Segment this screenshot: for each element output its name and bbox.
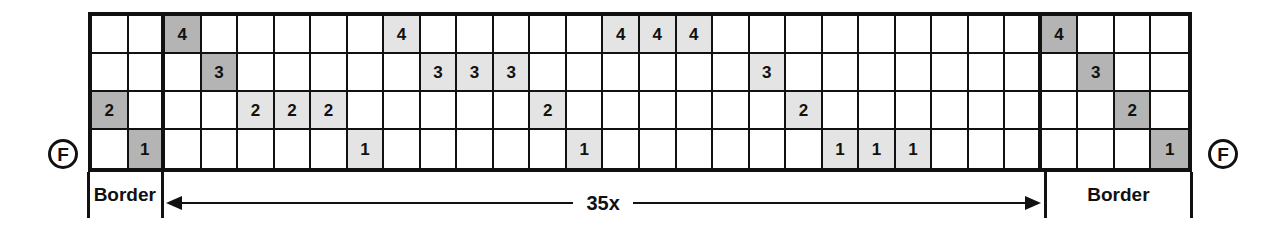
- draft-cell-empty: [1115, 16, 1152, 54]
- draft-cell-empty: [1042, 54, 1079, 92]
- draft-cell-empty: [603, 92, 640, 130]
- draft-cell-empty: [1151, 16, 1188, 54]
- draft-cell-empty: [348, 92, 385, 130]
- draft-cell-empty: [275, 54, 312, 92]
- draft-cell-marked: 3: [494, 54, 531, 92]
- draft-cell-empty: [92, 130, 129, 168]
- draft-cell-marked: 2: [275, 92, 312, 130]
- draft-cell-empty: [859, 92, 896, 130]
- draft-cell-empty: [92, 54, 129, 92]
- draft-cell-empty: [494, 92, 531, 130]
- draft-row: 2222222: [92, 92, 1188, 130]
- draft-cell-empty: [1078, 130, 1115, 168]
- draft-cell-empty: [567, 16, 604, 54]
- draft-cell-marked: 1: [823, 130, 860, 168]
- arrow-left-icon: [166, 196, 182, 210]
- draft-cell-empty: [1042, 130, 1079, 168]
- left-border-label: Border: [88, 178, 162, 210]
- draft-cell-empty: [786, 16, 823, 54]
- draft-cell-marked: 2: [530, 92, 567, 130]
- draft-cell-empty: [129, 54, 166, 92]
- draft-cell-empty: [713, 54, 750, 92]
- draft-cell-empty: [713, 92, 750, 130]
- draft-cell-marked: 2: [238, 92, 275, 130]
- draft-cell-empty: [713, 16, 750, 54]
- draft-cell-empty: [1005, 130, 1042, 168]
- draft-cell-empty: [786, 130, 823, 168]
- draft-cell-marked: 1: [129, 130, 166, 168]
- draft-cell-empty: [238, 16, 275, 54]
- draft-row: 1111111: [92, 130, 1188, 168]
- draft-cell-marked: 4: [603, 16, 640, 54]
- draft-cell-empty: [1151, 92, 1188, 130]
- draft-cell-empty: [311, 54, 348, 92]
- draft-cell-empty: [677, 130, 714, 168]
- draft-cell-empty: [969, 130, 1006, 168]
- draft-cell-empty: [165, 54, 202, 92]
- draft-cell-empty: [1078, 16, 1115, 54]
- draft-cell-empty: [165, 92, 202, 130]
- draft-cell-empty: [311, 16, 348, 54]
- draft-cell-empty: [348, 54, 385, 92]
- draft-cell-empty: [896, 54, 933, 92]
- draft-cell-empty: [457, 92, 494, 130]
- frame-marker-right: F: [1208, 139, 1238, 169]
- frame-marker-left: F: [48, 139, 78, 169]
- draft-cell-empty: [1005, 92, 1042, 130]
- draft-cell-empty: [823, 92, 860, 130]
- draft-cell-empty: [530, 16, 567, 54]
- repeat-count-label: 35x: [579, 192, 628, 214]
- draft-cell-empty: [1115, 54, 1152, 92]
- draft-cell-empty: [969, 16, 1006, 54]
- draft-cell-marked: 3: [1078, 54, 1115, 92]
- draft-cell-empty: [92, 16, 129, 54]
- draft-cell-empty: [932, 54, 969, 92]
- draft-cell-empty: [640, 92, 677, 130]
- draft-cell-empty: [859, 16, 896, 54]
- dimension-line-left: [181, 202, 574, 204]
- frame-marker-right-label: F: [1217, 145, 1229, 164]
- draft-cell-marked: 1: [1151, 130, 1188, 168]
- draft-cell-marked: 1: [859, 130, 896, 168]
- draft-cell-marked: 4: [384, 16, 421, 54]
- right-border-label: Border: [1045, 178, 1192, 210]
- draft-cell-empty: [1005, 54, 1042, 92]
- draft-cell-empty: [603, 54, 640, 92]
- draft-cell-empty: [750, 92, 787, 130]
- draft-cell-empty: [567, 92, 604, 130]
- draft-cell-empty: [457, 16, 494, 54]
- draft-cell-empty: [932, 92, 969, 130]
- draft-cell-empty: [421, 92, 458, 130]
- draft-cell-empty: [567, 54, 604, 92]
- draft-cell-marked: 1: [896, 130, 933, 168]
- draft-cell-empty: [823, 16, 860, 54]
- draft-grid: 44444433333322222221111111: [88, 12, 1192, 172]
- draft-cell-empty: [1078, 92, 1115, 130]
- draft-cell-empty: [348, 16, 385, 54]
- draft-cell-empty: [421, 16, 458, 54]
- draft-cell-empty: [603, 130, 640, 168]
- draft-cell-marked: 2: [92, 92, 129, 130]
- draft-cell-marked: 4: [677, 16, 714, 54]
- repeat-dimension-line: 35x: [166, 196, 1041, 210]
- draft-row: 333333: [92, 54, 1188, 92]
- draft-cell-empty: [275, 16, 312, 54]
- draft-cell-empty: [202, 130, 239, 168]
- draft-cell-empty: [1005, 16, 1042, 54]
- draft-cell-empty: [384, 92, 421, 130]
- draft-cell-empty: [238, 130, 275, 168]
- draft-cell-empty: [1042, 92, 1079, 130]
- threading-draft-diagram: F F 44444433333322222221111111 Border Bo…: [0, 0, 1266, 234]
- draft-cell-empty: [713, 130, 750, 168]
- draft-cell-empty: [640, 54, 677, 92]
- draft-cell-marked: 4: [1042, 16, 1079, 54]
- draft-cell-marked: 3: [750, 54, 787, 92]
- draft-cell-empty: [202, 16, 239, 54]
- draft-cell-marked: 3: [202, 54, 239, 92]
- draft-cell-empty: [677, 92, 714, 130]
- draft-cell-empty: [859, 54, 896, 92]
- draft-cell-empty: [275, 130, 312, 168]
- draft-cell-empty: [1115, 130, 1152, 168]
- draft-cell-empty: [202, 92, 239, 130]
- draft-cell-empty: [823, 54, 860, 92]
